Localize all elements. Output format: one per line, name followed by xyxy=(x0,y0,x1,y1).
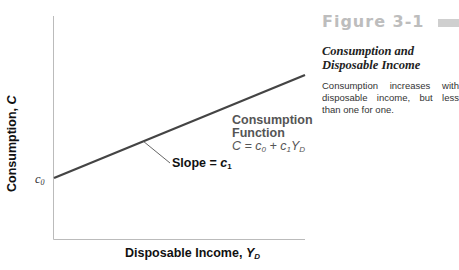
x-axis-label: Disposable Income, YD xyxy=(125,246,260,261)
slope-label: Slope = c1 xyxy=(172,156,232,171)
figure-decorative-bar xyxy=(438,19,459,27)
function-label: Consumption Function C = c0 + c1YD xyxy=(232,114,313,156)
function-equation: C = c0 + c1YD xyxy=(232,140,313,156)
y-axis-label: Consumption, C xyxy=(5,95,19,192)
figure-number: Figure 3-1 xyxy=(322,12,424,31)
slope-leader-line xyxy=(143,141,170,163)
figure-caption: Consumption increases with disposable in… xyxy=(322,80,459,116)
intercept-label: c0 xyxy=(35,172,45,187)
consumption-function-chart: Consumption, C Disposable Income, YD c0 … xyxy=(0,0,320,270)
figure-title: Consumption and Disposable Income xyxy=(322,44,459,72)
